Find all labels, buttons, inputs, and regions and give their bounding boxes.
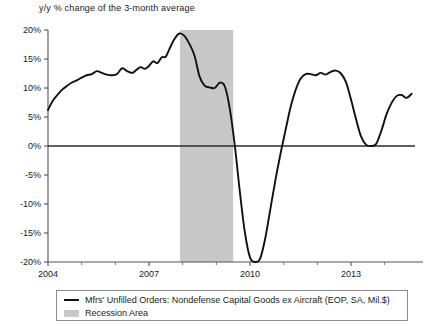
svg-text:2013: 2013	[341, 269, 361, 279]
legend-entry-label: Recession Area	[85, 308, 148, 318]
legend-entry-series: Mfrs' Unfilled Orders: Nondefense Capita…	[64, 294, 390, 306]
chart-legend: Mfrs' Unfilled Orders: Nondefense Capita…	[56, 290, 408, 321]
line-swatch-icon	[64, 299, 79, 301]
svg-text:10%: 10%	[23, 83, 41, 93]
chart-plot-area: 20%15%10%5%0%-5%-10%-15%-20% 20042007201…	[0, 0, 427, 327]
svg-text:-5%: -5%	[25, 170, 41, 180]
area-swatch-icon	[64, 310, 79, 317]
chart-container: y/y % change of the 3-month average 20%1…	[0, 0, 427, 327]
svg-text:20%: 20%	[23, 25, 41, 35]
svg-text:5%: 5%	[28, 112, 41, 122]
svg-text:-10%: -10%	[20, 199, 41, 209]
svg-text:-20%: -20%	[20, 257, 41, 267]
x-axis-ticks: 2004200720102013	[38, 262, 385, 279]
svg-text:-15%: -15%	[20, 228, 41, 238]
legend-entry-label: Mfrs' Unfilled Orders: Nondefense Capita…	[85, 295, 390, 305]
y-axis-ticks: 20%15%10%5%0%-5%-10%-15%-20%	[20, 25, 48, 267]
svg-text:2007: 2007	[139, 269, 159, 279]
svg-text:15%: 15%	[23, 54, 41, 64]
legend-entry-recession: Recession Area	[64, 307, 148, 319]
svg-text:0%: 0%	[28, 141, 41, 151]
svg-text:2004: 2004	[38, 269, 58, 279]
svg-text:2010: 2010	[240, 269, 260, 279]
